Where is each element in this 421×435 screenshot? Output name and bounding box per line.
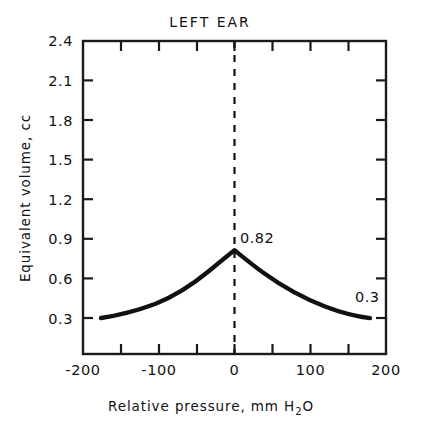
peak-value-annotation: 0.82	[240, 230, 274, 246]
chart-title: LEFT EAR	[169, 14, 251, 30]
y-axis-title: Equivalent volume, cc	[17, 114, 33, 282]
x-axis-title-tail: O	[302, 398, 314, 414]
y-tick-label-7: 2.4	[48, 33, 73, 49]
chart-background	[0, 0, 421, 435]
x-tick-label-2: 0	[230, 362, 240, 378]
x-tick-label-0: -200	[65, 362, 100, 378]
y-tick-label-3: 1.2	[48, 192, 73, 208]
tail-value-annotation: 0.3	[355, 289, 380, 305]
tympanogram-figure: LEFT EAR	[0, 0, 421, 435]
y-tick-label-2: 0.9	[48, 231, 73, 247]
x-axis-title-subscript: 2	[295, 406, 302, 417]
y-tick-label-4: 1.5	[48, 152, 73, 168]
y-tick-label-6: 2.1	[48, 73, 73, 89]
x-axis-title-main: Relative pressure, mm H	[108, 398, 295, 414]
chart-canvas: LEFT EAR	[0, 0, 421, 435]
y-tick-label-1: 0.6	[48, 271, 73, 287]
x-tick-label-3: 100	[296, 362, 325, 378]
y-tick-label-5: 1.8	[48, 113, 73, 129]
y-tick-label-0: 0.3	[48, 311, 73, 327]
x-tick-label-4: 200	[371, 362, 400, 378]
x-tick-label-1: -100	[141, 362, 176, 378]
